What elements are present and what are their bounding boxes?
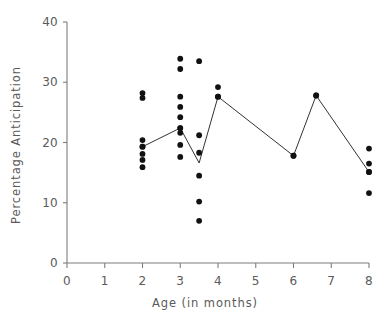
x-axis-tick-label: 2 (139, 274, 147, 288)
data-point (177, 104, 183, 110)
x-axis-tick-label: 3 (176, 274, 184, 288)
data-point (177, 56, 183, 62)
data-point (196, 173, 202, 179)
y-axis-tick-label: 10 (42, 196, 58, 210)
x-axis-title: Age (in months) (152, 296, 258, 310)
x-axis-tick-label: 0 (63, 274, 71, 288)
data-point (140, 157, 146, 163)
data-point (196, 150, 202, 156)
trend-vertex-point (215, 94, 221, 100)
data-point (366, 146, 372, 152)
data-point (140, 137, 146, 143)
data-point (177, 66, 183, 72)
data-point (177, 154, 183, 160)
x-axis-tick-label: 1 (101, 274, 109, 288)
trend-vertex-point (177, 125, 183, 131)
x-axis-tick-label: 5 (252, 274, 260, 288)
x-axis-tick-label: 6 (290, 274, 298, 288)
y-axis-tick-label: 30 (42, 75, 58, 89)
data-point (177, 94, 183, 100)
x-axis-tick-label: 8 (365, 274, 373, 288)
x-axis-tick-label: 7 (327, 274, 335, 288)
data-point (140, 151, 146, 157)
x-axis: 012345678 (63, 263, 373, 288)
data-point (366, 190, 372, 196)
y-axis-tick-label: 40 (42, 15, 58, 29)
data-point (196, 132, 202, 138)
data-point (196, 58, 202, 64)
data-point (366, 161, 372, 167)
trend-vertex-point (313, 93, 319, 99)
data-point (196, 199, 202, 205)
trend-vertex-point (291, 153, 297, 159)
trend-line-series (143, 96, 370, 173)
scatter-points-series (140, 56, 372, 224)
x-axis-tick-label: 4 (214, 274, 222, 288)
data-point (140, 95, 146, 101)
data-point (177, 114, 183, 120)
data-point (177, 142, 183, 148)
chart-container: 010203040 012345678 Percentage Anticipat… (0, 0, 391, 320)
scatter-plot: 010203040 012345678 Percentage Anticipat… (0, 0, 391, 320)
trend-vertex-point (140, 144, 146, 150)
y-axis-title: Percentage Anticipation (9, 66, 23, 224)
trend-line (143, 96, 370, 173)
data-point (140, 164, 146, 170)
y-axis-tick-label: 20 (42, 136, 58, 150)
y-axis: 010203040 (42, 15, 67, 270)
trend-vertex-point (366, 169, 372, 175)
data-point (196, 218, 202, 224)
y-axis-tick-label: 0 (50, 256, 58, 270)
data-point (215, 84, 221, 90)
